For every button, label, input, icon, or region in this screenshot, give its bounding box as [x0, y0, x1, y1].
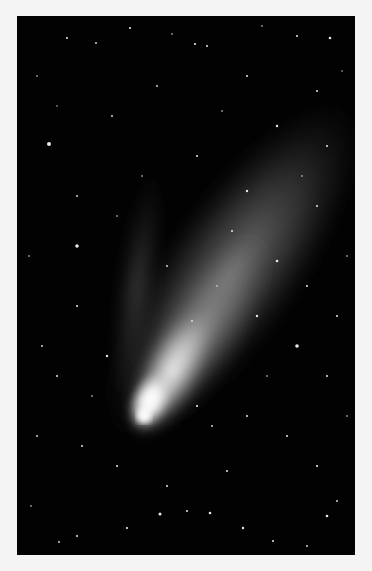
starfield-canvas — [17, 16, 355, 555]
dust-tail — [60, 67, 355, 475]
comet-photograph: Comet photograph — [17, 16, 355, 555]
